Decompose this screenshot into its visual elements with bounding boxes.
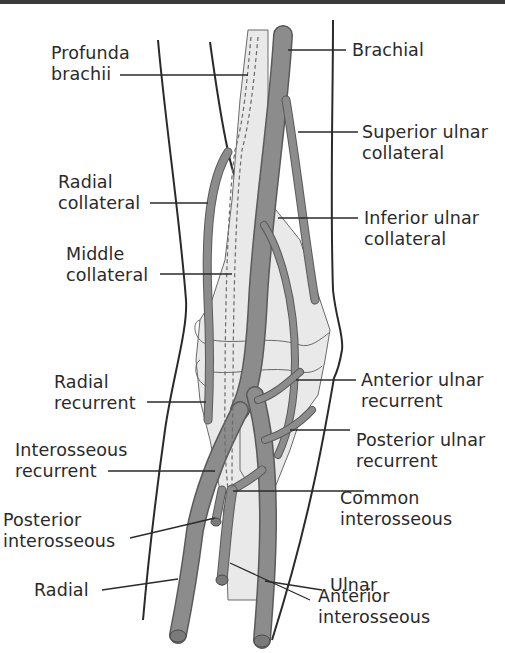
elbow-artery-illustration <box>0 0 505 653</box>
label-common-interosseous: Common interosseous <box>340 488 452 530</box>
label-radial-collateral: Radial collateral <box>58 172 140 214</box>
label-radial: Radial <box>34 580 89 601</box>
label-anterior-interosseous: Anterior interosseous <box>318 586 430 628</box>
label-brachial: Brachial <box>352 40 424 61</box>
label-anterior-ulnar-recurrent: Anterior ulnar recurrent <box>361 370 484 412</box>
label-posterior-interosseous: Posterior interosseous <box>3 510 115 552</box>
label-radial-recurrent: Radial recurrent <box>54 372 136 414</box>
label-middle-collateral: Middle collateral <box>66 244 148 286</box>
label-posterior-ulnar-recurrent: Posterior ulnar recurrent <box>356 430 485 472</box>
label-inferior-ulnar-collateral: Inferior ulnar collateral <box>364 208 479 250</box>
label-profunda-brachii: Profunda brachii <box>51 43 130 85</box>
label-superior-ulnar-collateral: Superior ulnar collateral <box>362 122 488 164</box>
label-interosseous-recurrent: Interosseous recurrent <box>15 440 128 482</box>
